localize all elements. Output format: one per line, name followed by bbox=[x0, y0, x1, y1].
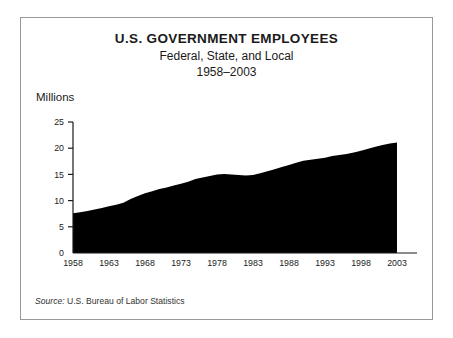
source-note: Source: U.S. Bureau of Labor Statistics bbox=[35, 296, 185, 306]
source-label: Source: bbox=[35, 296, 65, 306]
area-series-fill bbox=[73, 142, 397, 253]
x-axis-tick-label: 1978 bbox=[207, 258, 227, 268]
x-axis-tick-label: 1993 bbox=[315, 258, 335, 268]
source-text: U.S. Bureau of Labor Statistics bbox=[65, 296, 185, 306]
x-axis-tick-label: 1998 bbox=[351, 258, 371, 268]
x-axis-tick-label: 1983 bbox=[243, 258, 263, 268]
x-axis-tick-label: 1963 bbox=[99, 258, 119, 268]
x-axis-tick-label: 1988 bbox=[279, 258, 299, 268]
y-axis-tick-label: 5 bbox=[59, 222, 64, 232]
x-axis-tick-label: 1958 bbox=[63, 258, 83, 268]
y-axis-tick-label: 0 bbox=[59, 248, 64, 258]
y-axis-tick-label: 25 bbox=[54, 117, 64, 127]
y-axis-tick-label: 10 bbox=[54, 196, 64, 206]
plot-area-group bbox=[73, 142, 397, 253]
x-axis-tick-label: 2003 bbox=[387, 258, 407, 268]
x-axis-tick-label: 1968 bbox=[135, 258, 155, 268]
y-axis-tick-label: 15 bbox=[54, 170, 64, 180]
chart-figure-frame: U.S. GOVERNMENT EMPLOYEES Federal, State… bbox=[20, 17, 433, 320]
x-axis-tick-label: 1973 bbox=[171, 258, 191, 268]
y-axis-tick-label: 20 bbox=[54, 143, 64, 153]
area-chart-plot: 0510152025195819631968197319781983198819… bbox=[21, 18, 434, 321]
